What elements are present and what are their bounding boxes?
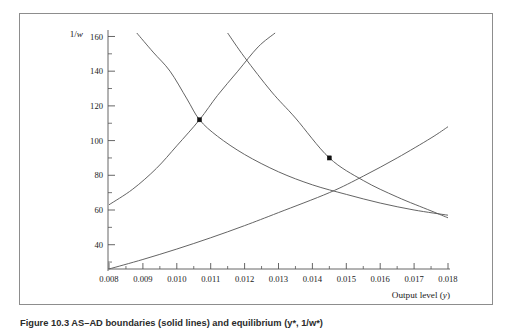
x-tick-label: 0.012 — [235, 274, 254, 284]
y-tick-label: 100 — [90, 136, 103, 146]
curve-falling-curve-right — [228, 33, 448, 218]
x-tick-label: 0.016 — [371, 274, 391, 284]
figure-caption: Figure 10.3 AS–AD boundaries (solid line… — [20, 318, 490, 329]
x-tick-label: 0.013 — [269, 274, 288, 284]
x-tick-label: 0.008 — [99, 274, 118, 284]
y-tick-label: 160 — [90, 32, 103, 42]
x-tick-label: 0.015 — [337, 274, 356, 284]
y-axis-label: 1/w — [70, 29, 84, 39]
chart-plot: 4060801001201401600.0080.0090.0100.0110.… — [20, 14, 492, 304]
x-tick-label: 0.014 — [303, 274, 323, 284]
x-tick-label: 0.010 — [167, 274, 186, 284]
y-tick-label: 120 — [90, 101, 103, 111]
x-tick-label: 0.017 — [404, 274, 424, 284]
equilibrium-point-1 — [197, 118, 201, 122]
x-axis-label: Output level (y) — [392, 290, 450, 300]
y-tick-label: 60 — [94, 205, 103, 215]
curve-falling-curve-left — [137, 33, 448, 215]
y-tick-label: 40 — [94, 240, 103, 250]
x-tick-label: 0.009 — [133, 274, 152, 284]
curve-rising-curve-steep — [109, 33, 275, 205]
figure-frame: 4060801001201401600.0080.0090.0100.0110.… — [19, 13, 493, 305]
y-tick-label: 80 — [94, 170, 103, 180]
curve-rising-curve-shallow — [109, 127, 448, 269]
x-tick-label: 0.018 — [438, 274, 457, 284]
y-tick-label: 140 — [90, 66, 103, 76]
x-tick-label: 0.011 — [201, 274, 220, 284]
equilibrium-point-2 — [327, 156, 331, 160]
